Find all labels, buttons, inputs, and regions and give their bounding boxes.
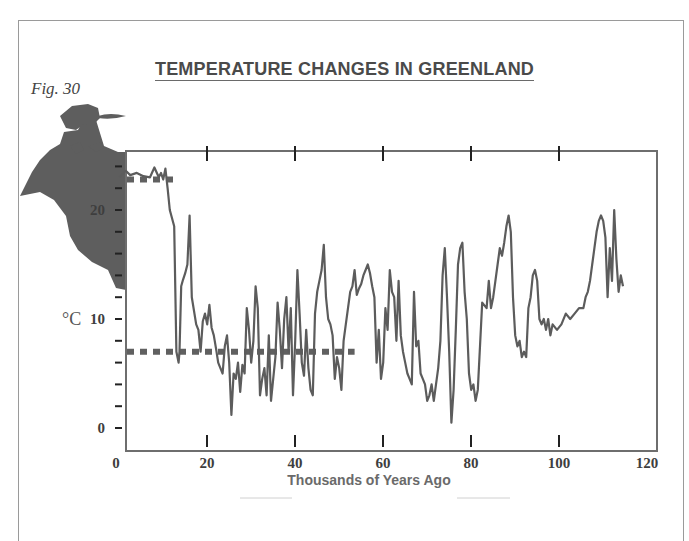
x-tick-label: 120	[636, 455, 659, 471]
y-tick-label: 0	[98, 420, 106, 436]
x-tick-label: 60	[376, 455, 391, 471]
x-tick-label: 80	[464, 455, 479, 471]
y-unit-label: °C	[62, 309, 81, 329]
island-icon	[98, 114, 126, 119]
x-tick-label: 40	[288, 455, 303, 471]
plot-frame	[126, 151, 657, 451]
y-tick-label: 10	[90, 311, 105, 327]
x-tick-label: 0	[112, 455, 120, 471]
x-axis-title: Thousands of Years Ago	[287, 472, 450, 488]
x-tick-label: 100	[548, 455, 571, 471]
x-tick-label: 20	[200, 455, 215, 471]
greenland-map-icon	[20, 104, 126, 290]
plot-area	[119, 151, 657, 451]
y-tick-label: 20	[90, 202, 105, 218]
